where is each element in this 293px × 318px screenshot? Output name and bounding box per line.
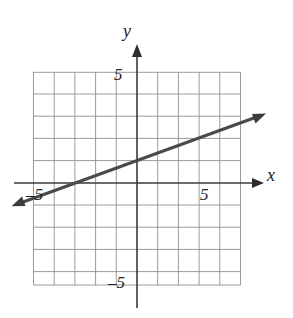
y-axis-tick-label-5: 5: [114, 66, 123, 83]
line-arrowhead-left-icon: [12, 197, 26, 207]
y-axis-arrowhead-icon: [132, 44, 142, 57]
line-segment: [19, 117, 258, 204]
y-axis: [132, 44, 142, 308]
graph-canvas: [0, 0, 293, 318]
y-axis-tick-label-negative-5: –5: [108, 274, 125, 291]
x-axis-name-label: x: [267, 166, 275, 184]
line-arrowhead-right-icon: [252, 114, 266, 124]
y-axis-name-label: y: [123, 22, 131, 40]
x-axis: [14, 178, 264, 188]
x-axis-tick-label-5: 5: [200, 186, 209, 203]
x-axis-tick-label-negative-5: –5: [26, 186, 43, 203]
plotted-line-series: [12, 114, 267, 207]
coordinate-plane-figure: 5 –5 5 –5 x y: [0, 0, 293, 318]
x-axis-arrowhead-icon: [252, 178, 264, 188]
